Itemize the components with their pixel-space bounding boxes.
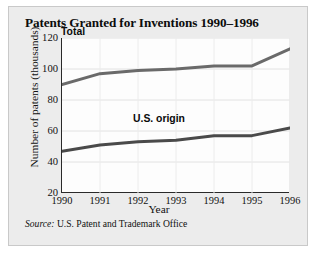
series-label-total: Total (61, 26, 85, 37)
x-axis-tick-label: 1995 (242, 195, 263, 206)
y-axis-tick-label: 40 (47, 156, 58, 167)
source-value: U.S. Patent and Trademark Office (57, 218, 187, 229)
x-axis-tick-label: 1993 (166, 195, 187, 206)
x-axis-tick-label: 1992 (128, 195, 149, 206)
figure-panel: Patents Granted for Inventions 1990–1996… (8, 6, 308, 246)
x-axis-tick-label: 1994 (204, 195, 225, 206)
x-axis-tick-label: 1996 (280, 195, 301, 206)
y-axis-tick-label: 120 (42, 32, 58, 43)
y-axis-tick-label: 80 (47, 94, 58, 105)
source-label: Source: (25, 218, 54, 229)
x-axis-tick-label: 1991 (90, 195, 111, 206)
y-axis-title: Number of patents (thousands) (28, 17, 40, 177)
y-axis-tick-label: 60 (47, 125, 58, 136)
series-label-us-origin: U.S. origin (133, 113, 185, 124)
x-axis-tick-label: 1990 (52, 195, 73, 206)
y-axis-tick-label: 100 (42, 63, 58, 74)
source-note: Source: U.S. Patent and Trademark Office (25, 218, 187, 229)
